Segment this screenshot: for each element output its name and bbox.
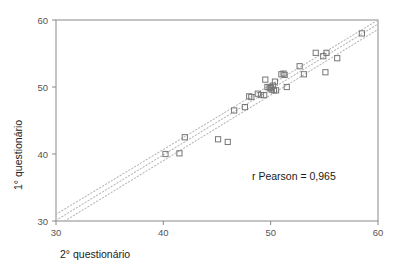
y-tick-label: 40: [37, 149, 48, 160]
pearson-correlation-annotation: r Pearson = 0,965: [252, 170, 336, 182]
chart-canvas: 30405060 30405060 2° questionário 1° que…: [0, 0, 402, 266]
y-tick-label: 60: [37, 15, 48, 26]
x-tick-label: 50: [265, 227, 276, 238]
y-axis-title: 1° questionário: [12, 120, 24, 190]
y-tick-label: 50: [37, 82, 48, 93]
y-tick-label: 30: [37, 216, 48, 227]
x-tick-label: 60: [373, 227, 384, 238]
x-axis-title: 2° questionário: [60, 248, 130, 260]
x-tick-label: 30: [51, 227, 62, 238]
x-tick-label: 40: [158, 227, 169, 238]
scatter-plot-figure: 30405060 30405060 2° questionário 1° que…: [0, 0, 402, 266]
